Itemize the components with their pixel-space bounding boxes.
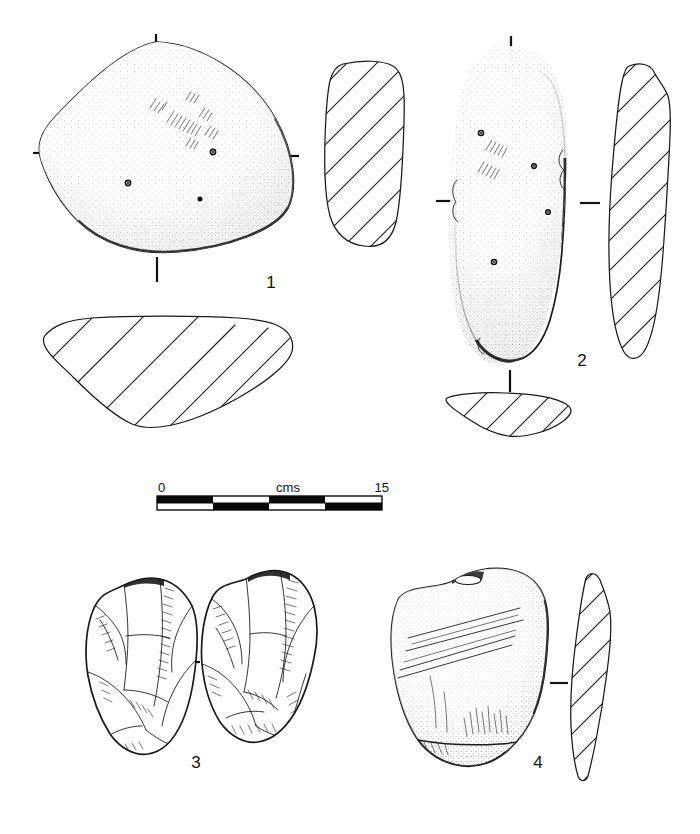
figure-4-profile-section <box>556 560 622 798</box>
figure-3-face-a-outline <box>86 578 197 754</box>
plate-canvas: 1 <box>0 0 700 834</box>
scale-unit-label: cms <box>276 480 300 495</box>
figure-1-end-section <box>300 40 428 262</box>
figure-2-long-section <box>590 40 685 372</box>
figure-4-plan-view <box>385 560 560 775</box>
figure-3-face-b-outline <box>201 571 317 743</box>
figure-1-label: 1 <box>266 273 275 292</box>
figure-3-face-a <box>86 577 197 754</box>
figure-3-face-b <box>201 569 317 743</box>
scale-end-label: 15 <box>375 480 389 495</box>
figure-1-side-section-outline <box>43 316 292 427</box>
figure-4-group: 4 <box>385 560 622 798</box>
figure-2-surface-texture <box>445 40 585 375</box>
figure-4-label: 4 <box>533 753 542 772</box>
figure-2-label: 2 <box>577 351 586 370</box>
scale-bar-top-row <box>157 496 382 503</box>
illustration-plate: 1 <box>0 0 700 834</box>
scale-bar-group: 0 cms 15 <box>157 480 389 510</box>
scale-bar-bottom-row <box>157 503 382 510</box>
figure-1-end-section-outline <box>325 61 404 246</box>
figure-2-plan-view <box>445 40 585 375</box>
figure-4-surface-texture <box>385 560 560 775</box>
figure-2-group: 2 <box>430 36 685 450</box>
figure-3-label: 3 <box>191 753 200 772</box>
figure-2-long-section-outline <box>609 64 670 358</box>
figure-3-group: 3 <box>86 569 317 772</box>
figure-1-plan-view <box>35 38 305 263</box>
figure-1-group: 1 <box>20 34 428 448</box>
scale-start-label: 0 <box>158 480 165 495</box>
figure-4-profile-section-outline <box>571 574 611 781</box>
figure-1-side-section <box>20 290 312 448</box>
